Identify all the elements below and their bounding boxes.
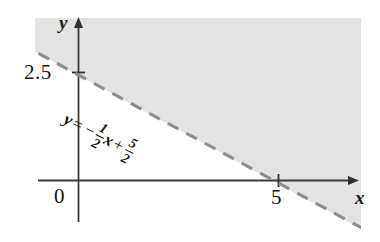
x-intercept-tick-label: 5 [271, 187, 282, 208]
y-intercept-tick-label: 2.5 [24, 62, 52, 83]
inequality-graph-figure: y x 2.5 0 5 y = − 1 2 x + 5 2 [0, 0, 380, 242]
origin-label: 0 [54, 186, 65, 207]
x-axis-name-label: x [355, 188, 365, 207]
y-axis-name-label: y [59, 13, 67, 32]
